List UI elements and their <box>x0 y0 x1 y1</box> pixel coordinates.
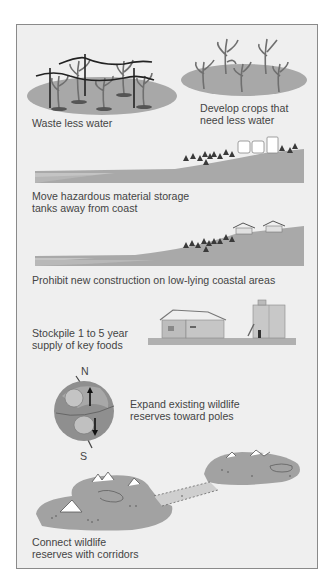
drought-crops-illustration <box>174 34 314 104</box>
caption-waste-less-water: Waste less water <box>32 117 112 129</box>
caption-line: need less water <box>200 114 288 126</box>
coastal-houses-illustration <box>35 220 305 266</box>
caption-line: reserves with corridors <box>32 548 139 560</box>
caption-line: Waste less water <box>32 117 112 129</box>
caption-line: Expand existing wildlife <box>130 398 240 410</box>
caption-line: Develop crops that <box>200 102 288 114</box>
caption-line: Move hazardous material storage <box>32 190 189 202</box>
barn-silo-illustration <box>148 300 298 350</box>
caption-develop-crops: Develop crops that need less water <box>200 102 288 126</box>
caption-line: tanks away from coast <box>32 202 189 214</box>
globe-north-label: N <box>81 365 89 377</box>
caption-line: reserves toward poles <box>130 410 240 422</box>
caption-line: supply of key foods <box>32 339 128 351</box>
coastal-tanks-illustration <box>35 137 305 183</box>
caption-line: Prohibit new construction on low-lying c… <box>32 274 275 286</box>
caption-move-tanks: Move hazardous material storage tanks aw… <box>32 190 189 214</box>
caption-line: Stockpile 1 to 5 year <box>32 327 128 339</box>
caption-expand-reserves: Expand existing wildlife reserves toward… <box>130 398 240 422</box>
caption-connect-reserves: Connect wildlife reserves with corridors <box>32 536 139 560</box>
drip-irrigation-illustration <box>24 46 184 126</box>
caption-stockpile-food: Stockpile 1 to 5 year supply of key food… <box>32 327 128 351</box>
caption-line: Connect wildlife <box>32 536 139 548</box>
wildlife-corridor-illustration <box>32 444 322 534</box>
caption-prohibit-construction: Prohibit new construction on low-lying c… <box>32 274 275 286</box>
